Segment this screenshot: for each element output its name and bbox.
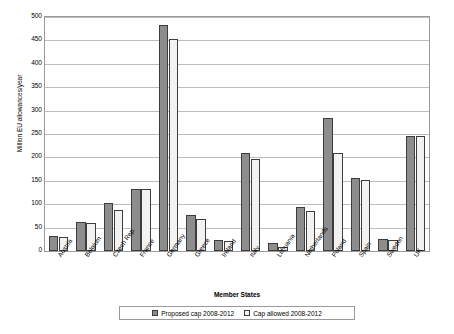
y-tick-label: 300 [16, 106, 42, 113]
y-tick-label: 50 [16, 223, 42, 230]
legend-item: Cap allowed 2008-2012 [244, 310, 322, 317]
y-tick-label: 250 [16, 129, 42, 136]
bars-layer [45, 17, 429, 251]
legend-item: Proposed cap 2008-2012 [152, 310, 234, 317]
bar [251, 159, 261, 251]
y-tick-label: 100 [16, 199, 42, 206]
bar [49, 236, 59, 251]
legend-label: Proposed cap 2008-2012 [161, 310, 234, 317]
bar [406, 136, 416, 251]
bar [416, 136, 426, 251]
bar [159, 25, 169, 251]
bar [104, 203, 114, 251]
y-tick-label: 0 [16, 246, 42, 253]
bar [76, 222, 86, 251]
y-tick-label: 500 [16, 12, 42, 19]
y-tick-label: 450 [16, 35, 42, 42]
chart-legend: Proposed cap 2008-2012Cap allowed 2008-2… [119, 306, 355, 320]
x-axis-title: Member States [44, 291, 430, 298]
bar [296, 207, 306, 251]
y-tick-label: 150 [16, 176, 42, 183]
y-tick-label: 200 [16, 152, 42, 159]
bar-chart: Million EU allowances/year 0501001502002… [0, 0, 454, 334]
y-tick-label: 400 [16, 59, 42, 66]
bar [131, 189, 141, 251]
legend-swatch [244, 310, 250, 316]
bar [186, 215, 196, 251]
bar [241, 153, 251, 251]
legend-swatch [152, 310, 158, 316]
plot-area [44, 16, 430, 252]
y-tick-label: 350 [16, 82, 42, 89]
legend-label: Cap allowed 2008-2012 [253, 310, 322, 317]
bar [351, 178, 361, 251]
bar [378, 239, 388, 251]
y-axis-tick-labels: 050100150200250300350400450500 [10, 0, 42, 268]
bar [169, 39, 179, 251]
